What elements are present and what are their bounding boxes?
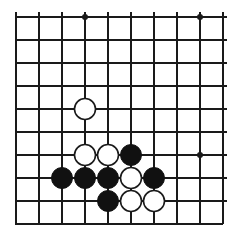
black-stone[interactable] [121,145,142,166]
go-board-grid[interactable] [0,0,227,233]
white-stone[interactable] [75,99,96,120]
white-stone[interactable] [121,168,142,189]
star-point-icon [197,14,203,20]
black-stone[interactable] [98,191,119,212]
star-point-icon [82,14,88,20]
white-stone[interactable] [121,191,142,212]
star-point-icon [197,152,203,158]
black-stone[interactable] [144,168,165,189]
black-stone[interactable] [75,168,96,189]
black-stone[interactable] [52,168,73,189]
grid-lines [15,12,227,224]
white-stone[interactable] [144,191,165,212]
white-stone[interactable] [75,145,96,166]
white-stone[interactable] [98,145,119,166]
black-stone[interactable] [98,168,119,189]
go-board-figure [0,0,227,233]
